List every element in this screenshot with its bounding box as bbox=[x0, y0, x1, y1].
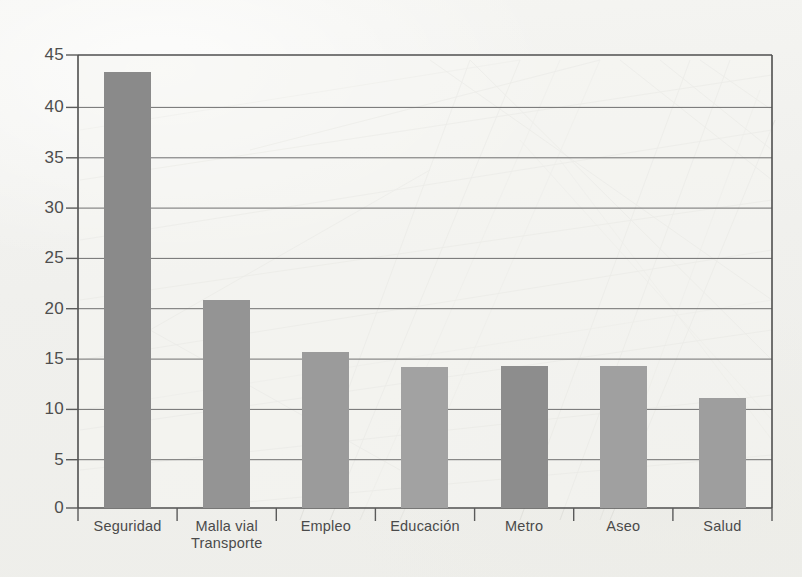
x-label-empleo: Empleo bbox=[276, 514, 375, 574]
y-tick-30: 30 bbox=[24, 198, 64, 218]
x-label-seguridad-line1: Seguridad bbox=[94, 518, 162, 534]
y-tick-25: 25 bbox=[24, 248, 64, 268]
x-label-malla-vial-line2: Transporte bbox=[177, 535, 276, 552]
x-axis-labels: Seguridad Malla vial Transporte Empleo E… bbox=[78, 514, 772, 574]
y-axis-ticks bbox=[66, 55, 78, 508]
y-tick-0: 0 bbox=[24, 498, 64, 518]
bar-cell-seguridad bbox=[78, 55, 177, 508]
y-tick-35: 35 bbox=[24, 148, 64, 168]
bar-educacion[interactable] bbox=[401, 367, 448, 508]
y-axis-labels: 0 5 10 15 20 25 30 35 40 45 bbox=[14, 0, 64, 577]
bar-empleo[interactable] bbox=[302, 352, 349, 508]
bar-salud[interactable] bbox=[699, 398, 746, 508]
x-label-aseo: Aseo bbox=[574, 514, 673, 574]
y-tick-45: 45 bbox=[24, 45, 64, 65]
y-tick-10: 10 bbox=[24, 399, 64, 419]
x-label-metro: Metro bbox=[475, 514, 574, 574]
bar-seguridad[interactable] bbox=[104, 72, 151, 508]
chart-page: 0 5 10 15 20 25 30 35 40 45 bbox=[0, 0, 802, 577]
y-tick-5: 5 bbox=[24, 450, 64, 470]
bar-cell-malla-vial-transporte bbox=[177, 55, 276, 508]
x-label-salud-line1: Salud bbox=[703, 518, 741, 534]
bar-metro[interactable] bbox=[501, 366, 548, 508]
bar-aseo[interactable] bbox=[600, 366, 647, 508]
x-label-metro-line1: Metro bbox=[505, 518, 543, 534]
bar-cell-educacion bbox=[375, 55, 474, 508]
x-label-educacion-line1: Educación bbox=[390, 518, 460, 534]
x-label-malla-vial-line1: Malla vial bbox=[195, 518, 257, 534]
bar-cell-metro bbox=[475, 55, 574, 508]
x-label-malla-vial-transporte: Malla vial Transporte bbox=[177, 514, 276, 574]
y-tick-40: 40 bbox=[24, 97, 64, 117]
x-label-educacion: Educación bbox=[375, 514, 474, 574]
bar-malla-vial-transporte[interactable] bbox=[203, 300, 250, 508]
x-label-salud: Salud bbox=[673, 514, 772, 574]
x-label-aseo-line1: Aseo bbox=[606, 518, 640, 534]
x-label-empleo-line1: Empleo bbox=[301, 518, 351, 534]
y-tick-15: 15 bbox=[24, 349, 64, 369]
bar-cell-aseo bbox=[574, 55, 673, 508]
bar-cell-empleo bbox=[276, 55, 375, 508]
bar-series bbox=[78, 55, 772, 508]
x-label-seguridad: Seguridad bbox=[78, 514, 177, 574]
y-tick-20: 20 bbox=[24, 299, 64, 319]
bar-cell-salud bbox=[673, 55, 772, 508]
